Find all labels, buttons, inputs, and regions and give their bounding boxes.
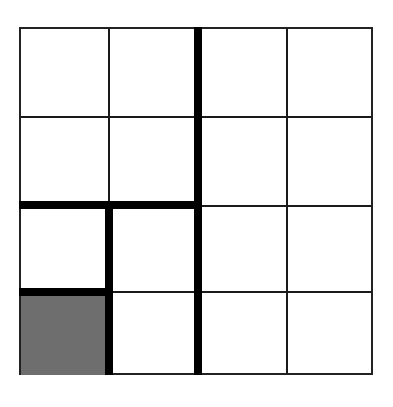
thick-divider-horizontal-1x1 xyxy=(19,288,111,296)
grid-line-vertical xyxy=(286,29,288,373)
shaded-cell xyxy=(21,294,107,375)
grid-line-horizontal xyxy=(109,291,371,293)
grid-diagram xyxy=(19,27,373,375)
grid-line-horizontal xyxy=(196,205,371,207)
